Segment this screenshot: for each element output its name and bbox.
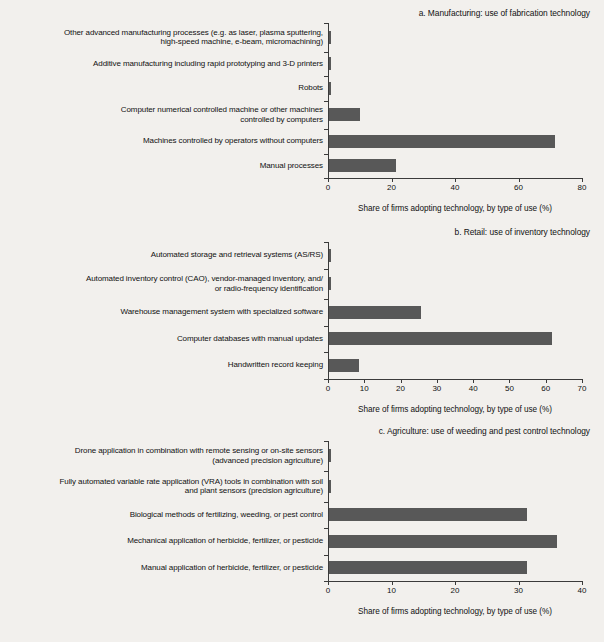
category-label-line: Manual processes [0,161,323,171]
panel-b-title: b. Retail: use of inventory technology [0,227,604,237]
x-axis-tick-label: 80 [578,183,587,192]
panel-retail: b. Retail: use of inventory technology A… [0,213,604,414]
panel-c-axis-title: Share of firms adopting technology, by t… [328,607,582,616]
x-axis-tick [509,379,510,383]
category-label: Fully automated variable rate applicatio… [0,477,328,496]
y-axis-tick [324,528,328,529]
panel-b-plot: Automated storage and retrieval systems … [0,242,604,379]
y-axis-tick [324,52,328,53]
category-row: Automated storage and retrieval systems … [0,242,604,269]
y-axis-tick [324,154,328,155]
x-axis-tick-label: 30 [514,586,523,595]
bar-track [328,23,604,52]
bar [328,135,555,148]
category-label: Manual application of herbicide, fertili… [0,563,328,573]
category-label-line: Other advanced manufacturing processes (… [0,28,323,38]
category-label: Computer databases with manual updates [0,334,328,344]
x-axis-tick-label: 40 [578,586,587,595]
bar-track [328,502,604,529]
x-axis-tick [582,581,583,585]
bar [328,535,557,548]
category-row: Other advanced manufacturing processes (… [0,23,604,52]
panel-b-x-axis: 010203040506070 [328,379,582,405]
category-label: Mechanical application of herbicide, fer… [0,536,328,546]
x-axis-tick-label: 20 [451,586,460,595]
category-label-line: or radio-frequency identification [0,284,323,294]
category-row: Drone application in combination with re… [0,441,604,472]
category-label-line: Biological methods of fertilizing, weedi… [0,510,323,520]
x-axis-tick-label: 30 [432,384,441,393]
x-axis-tick [546,379,547,383]
category-label: Drone application in combination with re… [0,446,328,465]
panel-c-title: c. Agriculture: use of weeding and pest … [0,426,604,436]
x-axis-tick [455,178,456,182]
bar-track [328,471,604,502]
category-row: Handwritten record keeping [0,352,604,379]
y-axis-spine [328,441,329,582]
y-axis-tick [324,129,328,130]
y-axis-tick [324,441,328,442]
x-axis-tick-label: 40 [451,183,460,192]
bar-track [328,326,604,353]
category-label: Additive manufacturing including rapid p… [0,59,328,69]
x-axis-tick [328,581,329,585]
x-axis-tick [364,379,365,383]
y-axis-tick [324,299,328,300]
category-label: Automated storage and retrieval systems … [0,250,328,260]
x-axis-tick-label: 0 [326,183,330,192]
category-label-line: controlled by computers [0,115,323,125]
x-axis-tick-label: 50 [505,384,514,393]
category-label-line: Robots [0,83,323,93]
category-label: Manual processes [0,161,328,171]
category-label-line: Automated inventory control (CAO), vendo… [0,274,323,284]
category-row: Fully automated variable rate applicatio… [0,471,604,502]
y-axis-spine [328,23,329,178]
category-label-line: high-speed machine, e-beam, micromachini… [0,37,323,47]
panel-agriculture: c. Agriculture: use of weeding and pest … [0,414,604,617]
category-row: Warehouse management system with special… [0,299,604,326]
x-axis-tick [519,178,520,182]
category-label: Machines controlled by operators without… [0,136,328,146]
category-row: Robots [0,76,604,101]
category-row: Computer numerical controlled machine or… [0,101,604,130]
bar [328,561,527,574]
panel-b-axis-title: Share of firms adopting technology, by t… [328,405,582,414]
category-label-line: Machines controlled by operators without… [0,136,323,146]
category-label: Robots [0,83,328,93]
figure-three-panel-bar-charts: a. Manufacturing: use of fabrication tec… [0,0,604,642]
x-axis-tick [328,379,329,383]
bar-track [328,269,604,300]
category-label-line: Fully automated variable rate applicatio… [0,477,323,487]
y-axis-tick [324,101,328,102]
bar-track [328,129,604,154]
category-label-line: (advanced precision agriculture) [0,456,323,466]
y-axis-tick [324,326,328,327]
category-label-line: Mechanical application of herbicide, fer… [0,536,323,546]
x-axis-tick [328,178,329,182]
panel-a-x-axis: 020406080 [328,178,582,204]
category-label: Other advanced manufacturing processes (… [0,28,328,47]
bar-track [328,101,604,130]
y-axis-tick [324,502,328,503]
x-axis-tick [392,581,393,585]
category-label-line: Manual application of herbicide, fertili… [0,563,323,573]
bar [328,108,360,121]
bar [328,508,527,521]
panel-a-title: a. Manufacturing: use of fabrication tec… [0,8,604,18]
x-axis-tick-label: 60 [541,384,550,393]
bar-track [328,154,604,179]
category-label-line: and plant sensors (precision agriculture… [0,486,323,496]
y-axis-tick [324,269,328,270]
x-axis-tick [437,379,438,383]
panel-c-x-axis: 010203040 [328,581,582,607]
category-label-line: Handwritten record keeping [0,360,323,370]
category-row: Computer databases with manual updates [0,326,604,353]
x-axis-tick-label: 20 [396,384,405,393]
bar [328,306,421,319]
y-axis-tick [324,23,328,24]
category-row: Additive manufacturing including rapid p… [0,52,604,77]
panel-manufacturing: a. Manufacturing: use of fabrication tec… [0,0,604,213]
category-label: Automated inventory control (CAO), vendo… [0,274,328,293]
category-label: Computer numerical controlled machine or… [0,105,328,124]
bar [328,159,396,172]
